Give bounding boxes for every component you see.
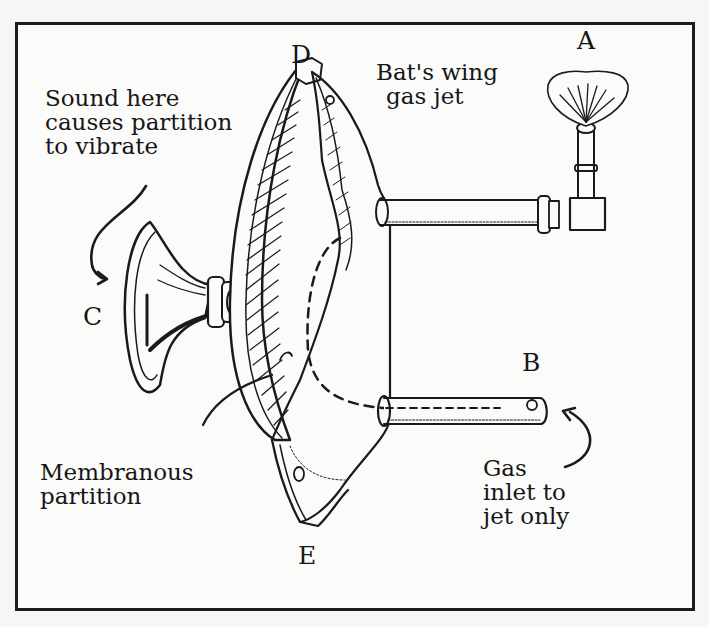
caption-sound-line-2: causes partition [45, 110, 232, 134]
caption-inlet-line-2: inlet to [483, 480, 569, 504]
label-b: B [522, 350, 540, 376]
caption-jet-line-1: Bat's wing [376, 60, 498, 84]
label-a: A [577, 28, 595, 54]
caption-inlet-line-3: jet only [483, 504, 569, 528]
label-d: D [291, 42, 311, 68]
lower-inlet-pipe [378, 396, 547, 426]
caption-inlet: Gas inlet to jet only [483, 456, 569, 528]
caption-jet: Bat's wing gas jet [376, 60, 498, 108]
label-c: C [83, 304, 102, 330]
horn-mouthpiece [125, 222, 237, 392]
label-e: E [298, 543, 316, 569]
caption-jet-line-2: gas jet [376, 84, 498, 108]
caption-sound: Sound here causes partition to vibrate [45, 86, 232, 158]
caption-sound-line-3: to vibrate [45, 134, 232, 158]
caption-membrane-line-2: partition [40, 484, 194, 508]
caption-inlet-line-1: Gas [483, 456, 569, 480]
caption-membrane-line-1: Membranous [40, 460, 194, 484]
caption-sound-line-1: Sound here [45, 86, 232, 110]
capsule-body [230, 58, 390, 526]
caption-membrane: Membranous partition [40, 460, 194, 508]
